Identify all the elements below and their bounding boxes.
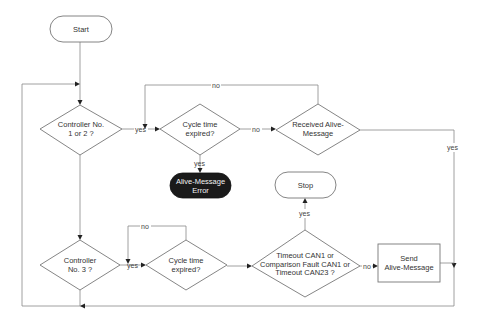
node-error-line1: Alive-Message [176,177,225,186]
node-stop-label: Stop [298,181,313,190]
node-cycle2-line2: expired? [172,265,201,274]
node-send: Send Alive-Message [378,244,440,282]
node-send-line2: Alive-Message [384,263,433,272]
node-received: Received Alive- Message [276,104,360,155]
flowchart-canvas: yes no no yes yes yes no yes no [0,0,478,323]
edge-label-timeout-no: no [363,263,371,270]
arrow-down-icon [78,100,83,105]
node-received-line1: Received Alive- [292,120,344,129]
node-error-line2: Error [192,186,209,195]
arrow-left-icon [80,304,85,309]
arrow-right-icon [75,82,80,87]
node-controller3: Controller No. 3 ? [40,240,120,290]
node-received-line2: Message [303,129,333,138]
node-error: Alive-Message Error [170,173,231,198]
node-stop: Stop [275,172,336,198]
node-cycle1: Cycle time expired? [160,104,240,155]
node-cycle2-line1: Cycle time [168,256,203,265]
node-cycle1-line1: Cycle time [182,120,217,129]
edge-label-received-yes: yes [447,144,458,152]
node-send-line1: Send [400,254,418,263]
arrow-up-icon [303,198,308,203]
node-cycle1-line2: expired? [186,129,215,138]
arrow-right-icon [271,127,276,132]
edge-label-cycle1-yes: yes [194,160,205,168]
edge-label-cycle1-no: no [252,126,260,133]
node-controller3-line2: No. 3 ? [68,265,92,274]
node-controller12: Controller No. 1 or 2 ? [40,105,122,155]
node-controller3-line1: Controller [64,256,97,265]
node-start-label: Start [73,25,90,34]
node-timeout: Timeout CAN1 or Comparison Fault CAN1 or… [252,230,360,297]
arrow-down-icon [198,168,203,173]
arrow-down-icon [452,263,457,268]
node-controller12-line1: Controller No. [58,120,104,129]
edge-label-cycle2-no: no [141,223,149,230]
edge-label-c3-yes: yes [127,262,138,270]
node-timeout-line3: Timeout CAN23 ? [275,268,334,277]
node-controller12-line2: 1 or 2 ? [68,129,93,138]
node-start: Start [50,16,112,42]
edge-label-timeout-yes: yes [299,210,310,218]
node-cycle2: Cycle time expired? [146,240,227,290]
edge-label-received-no: no [212,82,220,89]
arrow-down-icon [78,235,83,240]
arrow-right-icon [373,264,378,269]
